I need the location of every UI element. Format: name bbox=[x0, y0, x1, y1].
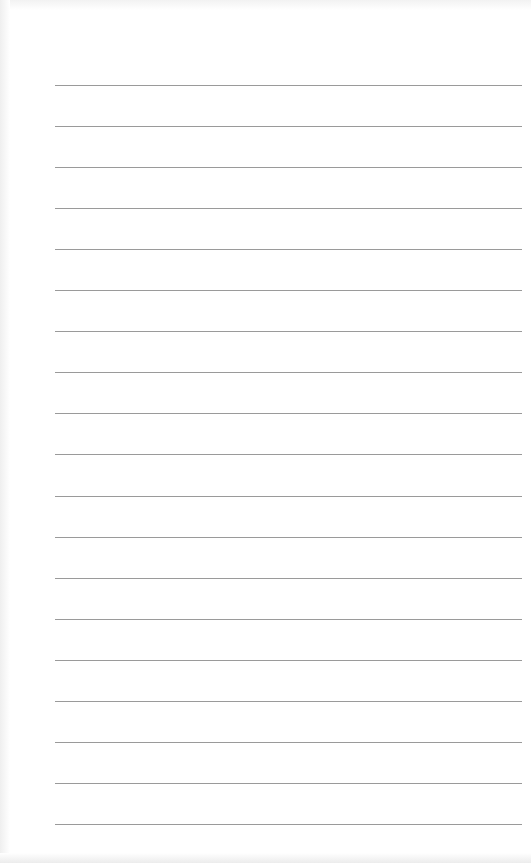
ruled-line bbox=[55, 126, 522, 127]
ruled-line bbox=[55, 290, 522, 291]
ruled-line bbox=[55, 578, 522, 579]
ruled-line bbox=[55, 167, 522, 168]
ruled-line bbox=[55, 660, 522, 661]
lined-paper-page bbox=[0, 0, 531, 863]
ruled-line bbox=[55, 824, 522, 825]
ruled-line bbox=[55, 208, 522, 209]
ruled-line bbox=[55, 249, 522, 250]
ruled-line bbox=[55, 619, 522, 620]
ruled-line bbox=[55, 701, 522, 702]
ruled-line bbox=[55, 372, 522, 373]
ruled-line bbox=[55, 413, 522, 414]
ruled-line bbox=[55, 454, 522, 455]
ruled-line bbox=[55, 537, 522, 538]
ruled-line bbox=[55, 742, 522, 743]
ruled-line bbox=[55, 496, 522, 497]
ruled-line bbox=[55, 331, 522, 332]
ruled-line bbox=[55, 85, 522, 86]
ruled-line bbox=[55, 783, 522, 784]
